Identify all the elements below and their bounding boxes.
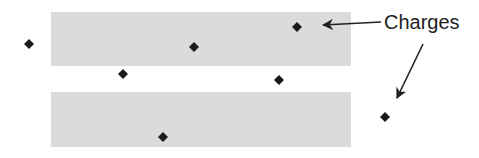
charges-label: Charges bbox=[384, 10, 460, 34]
charge-diamond-icon bbox=[380, 112, 390, 122]
charge-diamond-icon bbox=[118, 69, 128, 79]
top-slab bbox=[51, 12, 351, 66]
charge-diamond-icon bbox=[24, 39, 34, 49]
charge-diamond-icon bbox=[274, 75, 284, 85]
bottom-slab bbox=[51, 92, 351, 147]
arrow-to-free-charge-icon bbox=[397, 44, 423, 98]
